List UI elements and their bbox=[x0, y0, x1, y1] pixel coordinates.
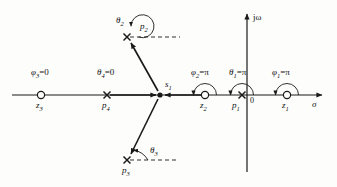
zero-marker-z1 bbox=[283, 91, 290, 98]
origin-label: 0 bbox=[250, 97, 254, 105]
angle-label-phi3: φ3=0 bbox=[31, 68, 49, 79]
angle-label-phi1: φ1=π bbox=[272, 68, 290, 79]
phi2-value: =π bbox=[199, 67, 209, 77]
pole-label-p2: p2 bbox=[140, 22, 148, 33]
angle-arc-theta3 bbox=[134, 150, 149, 160]
zero-label-z3: z3 bbox=[36, 101, 43, 112]
pole-zero-diagram bbox=[0, 0, 337, 187]
pole-markers bbox=[104, 34, 246, 164]
z1-subscript: 1 bbox=[286, 105, 289, 112]
zero-marker-z3 bbox=[37, 91, 44, 98]
zero-label-z1: z1 bbox=[282, 101, 289, 112]
angle-arc-theta1 bbox=[231, 84, 254, 95]
theta2-subscript: 2 bbox=[120, 20, 123, 27]
figure-canvas: σ jω 0 s1 z3 z2 z1 p4 p1 p2 p3 φ3=0 θ4=0… bbox=[0, 0, 337, 187]
test-point-s1-label: s1 bbox=[165, 80, 172, 91]
s1-subscript: 1 bbox=[169, 84, 172, 91]
test-point-s1-marker bbox=[157, 92, 162, 97]
p4-subscript: 4 bbox=[107, 105, 110, 112]
theta4-value: =0 bbox=[105, 67, 115, 77]
theta1-value: =π bbox=[237, 67, 247, 77]
vector-group bbox=[110, 43, 202, 154]
angle-label-theta3: θ3 bbox=[150, 146, 158, 157]
z3-subscript: 3 bbox=[40, 105, 43, 112]
p2-subscript: 2 bbox=[145, 26, 148, 33]
pole-marker-p2 bbox=[124, 34, 131, 41]
z2-subscript: 2 bbox=[204, 105, 207, 112]
jomega-axis-label: jω bbox=[253, 13, 261, 22]
phi3-value: =0 bbox=[39, 67, 49, 77]
zero-marker-z2 bbox=[201, 91, 208, 98]
phi1-value: =π bbox=[280, 67, 290, 77]
p1-subscript: 1 bbox=[237, 105, 240, 112]
pole-label-p3: p3 bbox=[122, 166, 130, 177]
angle-label-phi2: φ2=π bbox=[191, 68, 209, 79]
angle-label-theta4: θ4=0 bbox=[97, 68, 114, 79]
angle-label-theta2: θ2 bbox=[116, 16, 124, 27]
zero-label-z2: z2 bbox=[200, 101, 207, 112]
pole-marker-p3 bbox=[124, 157, 131, 164]
pole-label-p1: p1 bbox=[232, 101, 240, 112]
angle-label-theta1: θ1=π bbox=[229, 68, 246, 79]
theta3-subscript: 3 bbox=[154, 150, 157, 157]
p3-subscript: 3 bbox=[127, 170, 130, 177]
vector-p2-to-s1 bbox=[131, 43, 158, 91]
sigma-axis-label: σ bbox=[312, 100, 316, 109]
pole-label-p4: p4 bbox=[102, 101, 110, 112]
